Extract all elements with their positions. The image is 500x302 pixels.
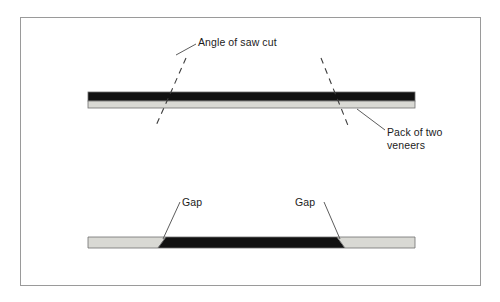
pack-of-two-veneers-leader	[357, 109, 385, 130]
lower-left-light-segment	[88, 237, 166, 248]
gap-right-label: Gap	[295, 196, 315, 209]
gap-right-leader	[324, 202, 340, 239]
lower-right-light-segment	[337, 237, 415, 248]
upper-light-veneer	[88, 101, 415, 108]
pack-label-line-1: Pack of two	[387, 126, 442, 138]
gap-left-label: Gap	[182, 196, 202, 209]
lower-center-dark-segment	[158, 237, 345, 248]
angle-of-saw-cut-leader	[176, 44, 196, 55]
angle-of-saw-cut-label: Angle of saw cut	[198, 36, 277, 49]
upper-dark-veneer	[88, 92, 415, 101]
pack-of-two-veneers-label: Pack of twoveneers	[387, 126, 442, 151]
veneer-saw-cut-diagram: Angle of saw cut Pack of twoveneers Gap …	[0, 0, 500, 302]
pack-label-line-2: veneers	[387, 139, 425, 151]
lower-veneer-pack	[88, 237, 415, 248]
gap-left-leader	[163, 202, 180, 239]
upper-veneer-pack	[88, 92, 415, 108]
